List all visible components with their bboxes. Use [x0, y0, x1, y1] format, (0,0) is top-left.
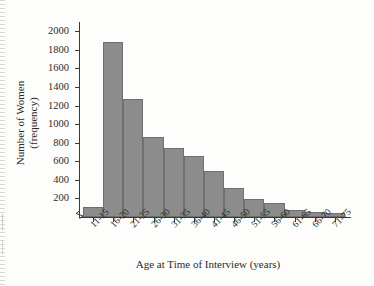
y-axis-tick: 400: [75, 180, 80, 181]
y-axis-tick-label: 1200: [48, 100, 69, 111]
bar: [123, 99, 143, 217]
y-axis-title-line-2: (frequency): [27, 81, 40, 165]
x-axis-tick-label: 66-70: [311, 207, 333, 229]
y-axis-tick: 1000: [75, 124, 80, 125]
y-axis-line: [79, 22, 80, 218]
scan-margin-mark-upper: [2, 214, 7, 230]
y-axis-tick-label: 1800: [48, 45, 69, 56]
plot-area: 200400600800100012001400160018002000 11-…: [79, 22, 351, 218]
x-axis-title-text: Age at Time of Interview (years): [136, 258, 281, 270]
x-axis-title: Age at Time of Interview (years): [0, 258, 374, 270]
y-axis-tick: 1400: [75, 87, 80, 88]
bar: [143, 137, 163, 217]
bar: [103, 42, 123, 218]
y-axis-tick-label: 600: [53, 156, 69, 167]
y-axis-tick-label: 200: [53, 193, 69, 204]
y-axis-tick-label: 400: [53, 175, 69, 186]
y-axis-tick: 200: [75, 198, 80, 199]
bar: [164, 148, 184, 217]
x-axis-tick-label: 71-75: [331, 207, 353, 229]
y-axis-tick-label: 2000: [48, 26, 69, 37]
y-axis-title: Number of Women (frequency): [10, 58, 44, 188]
histogram-figure: Number of Women (frequency) 200400600800…: [0, 0, 374, 286]
y-axis-tick-label: 1600: [48, 63, 69, 74]
y-axis-title-line-1: Number of Women: [14, 81, 27, 165]
y-axis-tick-label: 1400: [48, 82, 69, 93]
y-axis-tick: 1600: [75, 68, 80, 69]
y-axis-tick: 1200: [75, 106, 80, 107]
y-axis-tick-label: 800: [53, 137, 69, 148]
y-axis-tick: 800: [75, 143, 80, 144]
scan-margin-mark-lower: [2, 240, 7, 254]
y-axis-tick: 2000: [75, 31, 80, 32]
y-axis-tick: 1800: [75, 50, 80, 51]
y-axis-tick-label: 1000: [48, 119, 69, 130]
y-axis-tick: 600: [75, 161, 80, 162]
